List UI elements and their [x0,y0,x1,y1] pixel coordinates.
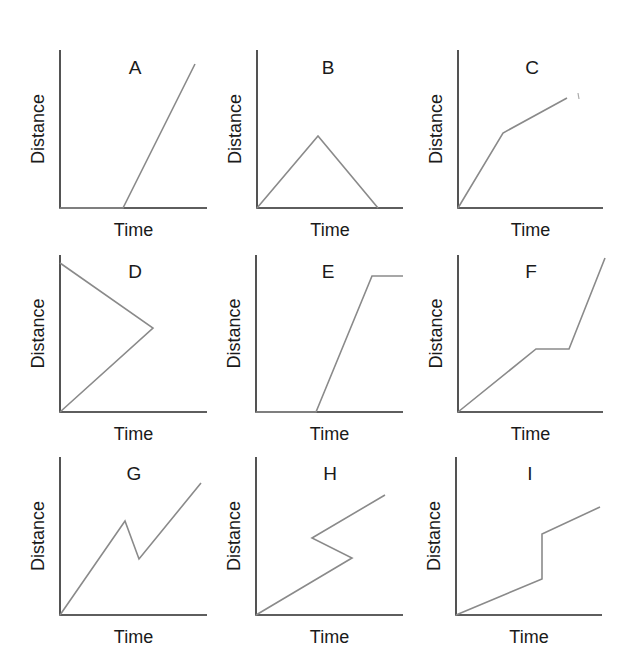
panel-i: ITimeDistance [424,457,602,647]
distance-time-curve [60,64,195,208]
x-axis-label: Time [114,627,153,647]
panel-g: GTimeDistance [28,457,207,647]
panel-a: ATimeDistance [28,50,207,240]
panel-h: HTimeDistance [224,457,403,647]
panel-label: B [322,57,335,78]
x-axis-label: Time [114,424,153,444]
x-axis-label: Time [310,220,349,240]
x-axis-label: Time [511,424,550,444]
panel-label: I [527,463,532,484]
y-axis-label: Distance [426,298,446,368]
y-axis-label: Distance [426,94,446,164]
distance-time-curve [458,98,567,208]
panel-label: H [323,463,337,484]
stray-mark [578,93,579,99]
panel-label: G [127,463,142,484]
y-axis-label: Distance [28,298,48,368]
y-axis-label: Distance [28,94,48,164]
distance-time-curve [257,136,378,208]
x-axis-label: Time [114,220,153,240]
distance-time-graph-grid: ATimeDistanceBTimeDistanceCTimeDistanceD… [0,0,635,672]
panel-f: FTimeDistance [426,255,605,444]
panel-d: DTimeDistance [28,255,207,444]
x-axis-label: Time [511,220,550,240]
panel-label: F [525,261,537,282]
y-axis-label: Distance [28,501,48,571]
distance-time-curve [60,483,201,615]
x-axis-label: Time [509,627,548,647]
panel-label: D [128,261,142,282]
x-axis-label: Time [310,627,349,647]
y-axis-label: Distance [225,94,245,164]
y-axis-label: Distance [224,501,244,571]
distance-time-curve [256,495,385,615]
distance-time-curve [60,263,153,412]
panel-label: A [129,57,142,78]
panel-c: CTimeDistance [426,50,603,240]
y-axis-label: Distance [224,298,244,368]
panel-b: BTimeDistance [225,50,403,240]
distance-time-curve [256,276,403,412]
distance-time-curve [456,507,600,615]
panel-label: C [525,57,539,78]
x-axis-label: Time [310,424,349,444]
panels-container: ATimeDistanceBTimeDistanceCTimeDistanceD… [28,50,605,647]
panel-label: E [322,261,335,282]
panel-e: ETimeDistance [224,255,403,444]
y-axis-label: Distance [424,501,444,571]
